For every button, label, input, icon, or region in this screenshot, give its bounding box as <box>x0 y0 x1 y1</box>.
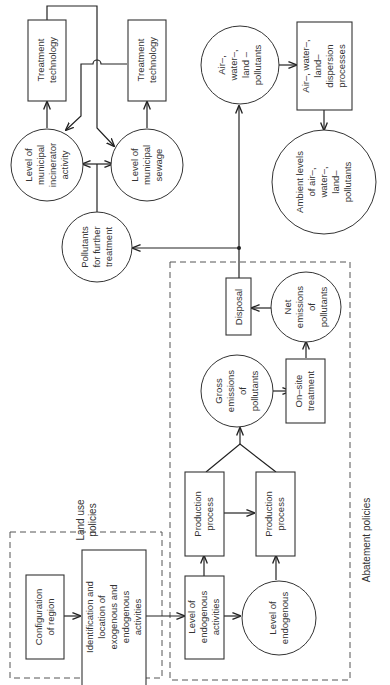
svg-text:Level of: Level of <box>186 600 197 634</box>
svg-text:Production: Production <box>263 491 274 536</box>
svg-text:land–: land– <box>312 54 323 78</box>
svg-text:endogenous: endogenous <box>120 591 131 644</box>
svg-text:Disposal: Disposal <box>233 289 244 325</box>
svg-text:for further: for further <box>91 226 102 267</box>
svg-text:Level of: Level of <box>267 601 278 635</box>
abatement-label: Abatement policies <box>361 498 372 583</box>
svg-text:land –: land – <box>240 51 251 78</box>
svg-text:Treatment: Treatment <box>35 38 46 81</box>
node-level-endogenous: Level of endogenous <box>242 581 316 655</box>
svg-text:Land use: Land use <box>75 499 86 541</box>
svg-text:On–site: On–site <box>293 375 304 408</box>
svg-text:process: process <box>204 497 215 531</box>
node-incinerator-activity: Level of municipal incinerator activity <box>11 129 83 201</box>
node-ambient-levels: Ambient levels of air–, water–, land– po… <box>272 130 376 234</box>
svg-text:Gross: Gross <box>213 378 224 404</box>
svg-text:Pollutants: Pollutants <box>79 226 90 268</box>
svg-text:treatment: treatment <box>305 371 316 411</box>
svg-text:policies: policies <box>87 503 98 536</box>
svg-text:Production: Production <box>192 491 203 536</box>
svg-text:activities: activities <box>210 599 221 636</box>
svg-text:exogenous and: exogenous and <box>108 585 119 650</box>
node-net-emissions: Net emissions of pollutants <box>271 272 341 342</box>
svg-text:of air–,: of air–, <box>306 167 317 196</box>
svg-text:pollutants: pollutants <box>342 161 353 202</box>
svg-text:dispersion: dispersion <box>324 44 335 87</box>
node-pollutants-further-treatment: Pollutants for further treatment <box>62 212 132 282</box>
svg-text:sewage: sewage <box>153 149 164 182</box>
svg-text:Treatment: Treatment <box>135 38 146 81</box>
node-configuration: Configuration of region <box>26 575 64 659</box>
svg-text:processes: processes <box>336 44 347 88</box>
svg-text:technology: technology <box>47 37 58 83</box>
svg-text:municipal: municipal <box>141 145 152 185</box>
svg-text:pollutants: pollutants <box>249 370 260 411</box>
svg-text:Identification and: Identification and <box>84 581 95 653</box>
svg-text:land–: land– <box>330 170 341 194</box>
svg-text:Ambient levels: Ambient levels <box>294 151 305 213</box>
svg-text:activities: activities <box>132 599 143 636</box>
svg-text:incinerator: incinerator <box>47 143 58 187</box>
svg-text:treatment: treatment <box>103 227 114 267</box>
svg-text:Net: Net <box>282 299 293 314</box>
svg-text:location of: location of <box>96 595 107 639</box>
svg-text:emissions: emissions <box>225 370 236 412</box>
svg-text:of region: of region <box>45 599 56 636</box>
svg-text:Level of: Level of <box>23 148 34 182</box>
svg-text:endogenous: endogenous <box>279 592 290 645</box>
svg-text:of: of <box>237 387 248 395</box>
svg-text:Air–,: Air–, <box>216 55 227 75</box>
node-dispersion-processes: Air–, water–, land– dispersion processes <box>297 22 352 110</box>
node-onsite-treatment: On–site treatment <box>286 359 325 423</box>
node-disposal: Disposal <box>226 278 251 335</box>
svg-text:municipal: municipal <box>35 145 46 185</box>
node-production-process-2: Production process <box>256 472 295 556</box>
svg-text:technology: technology <box>147 37 158 83</box>
node-treatment-technology-1: Treatment technology <box>28 20 66 101</box>
land-use-label: Land use policies <box>75 499 98 541</box>
node-air-water-land-pollutants: Air–, water–, land – pollutants <box>201 26 279 104</box>
svg-text:of: of <box>306 303 317 311</box>
svg-text:water–,: water–, <box>228 49 239 81</box>
node-identification: Identification and location of exogenous… <box>82 550 146 685</box>
svg-text:pollutants: pollutants <box>252 44 263 85</box>
svg-text:endogenous: endogenous <box>198 591 209 644</box>
node-treatment-technology-2: Treatment technology <box>128 20 166 101</box>
svg-text:activity: activity <box>59 150 70 179</box>
svg-text:Configuration: Configuration <box>33 589 44 646</box>
svg-text:process: process <box>275 497 286 531</box>
node-level-endogenous-activities: Level of endogenous activities <box>185 576 224 659</box>
pollution-flow-diagram: Land use policies Abatement policies <box>0 0 390 685</box>
svg-text:Level of: Level of <box>129 148 140 182</box>
node-production-process-1: Production process <box>185 472 224 556</box>
node-municipal-sewage: Level of municipal sewage <box>111 129 183 201</box>
svg-text:pollutants: pollutants <box>318 286 329 327</box>
svg-text:Air–, water–,: Air–, water–, <box>300 39 311 92</box>
svg-text:water–,: water–, <box>318 166 329 198</box>
node-gross-emissions: Gross emissions of pollutants <box>201 355 273 427</box>
svg-text:emissions: emissions <box>294 286 305 328</box>
